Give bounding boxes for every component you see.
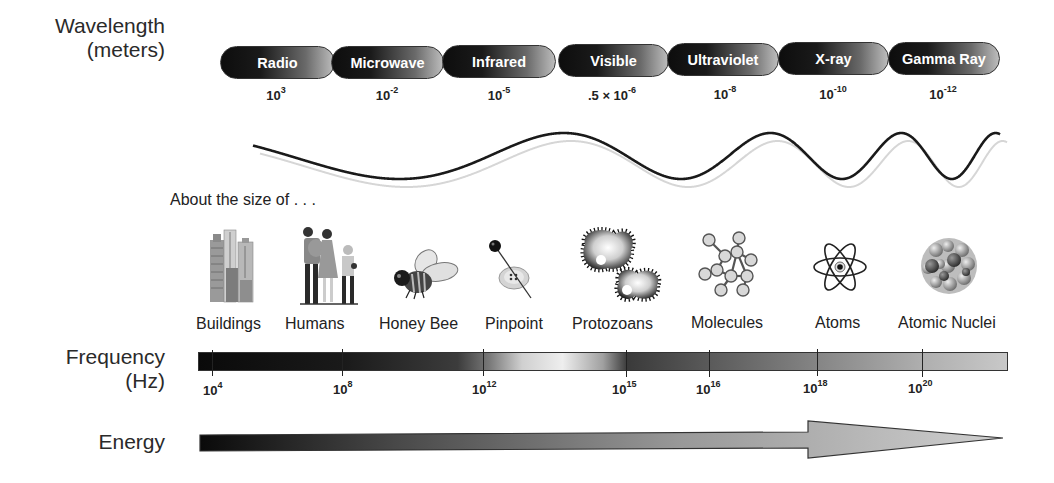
frequency-label-line1: Frequency (40, 345, 165, 369)
size-label-pinpoint: Pinpoint (485, 315, 543, 333)
energy-arrow (0, 410, 1054, 483)
buildings-icon (208, 228, 258, 304)
molecules-icon (695, 230, 767, 300)
frequency-tick (483, 349, 484, 376)
size-label-protozoans: Protozoans (572, 315, 653, 333)
frequency-tick (922, 349, 923, 377)
size-label-molecules: Molecules (691, 314, 763, 332)
size-label-buildings: Buildings (196, 315, 261, 333)
frequency-value: 1016 (696, 382, 720, 397)
frequency-tick (709, 350, 710, 377)
frequency-value: 104 (203, 383, 222, 398)
frequency-value: 1012 (472, 382, 496, 397)
frequency-label-line2: (Hz) (40, 369, 165, 393)
honey-bee-icon (388, 248, 460, 300)
frequency-value: 108 (333, 382, 352, 397)
frequency-label: Frequency (Hz) (40, 345, 165, 393)
humans-icon (296, 226, 362, 306)
size-label-honey-bee: Honey Bee (379, 315, 458, 333)
frequency-tick (342, 349, 343, 376)
frequency-tick (212, 350, 213, 376)
frequency-tick (626, 350, 627, 377)
atomic-nuclei-icon (918, 236, 980, 296)
frequency-tick (817, 349, 818, 376)
size-label-atoms: Atoms (815, 314, 860, 332)
frequency-value: 1015 (612, 382, 636, 397)
frequency-bar (198, 352, 1008, 371)
protozoans-icon (575, 222, 665, 306)
size-label-atomic-nuclei: Atomic Nuclei (898, 314, 996, 332)
frequency-value: 1018 (803, 381, 827, 396)
atom-icon (812, 238, 868, 296)
pinpoint-icon (485, 236, 545, 302)
frequency-value: 1020 (908, 381, 932, 396)
size-caption: About the size of . . . (170, 191, 316, 209)
size-label-humans: Humans (285, 315, 345, 333)
